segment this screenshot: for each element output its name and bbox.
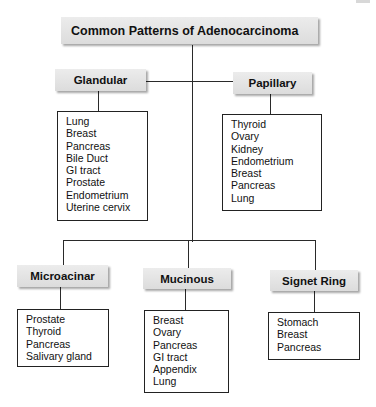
list-item: Pancreas (231, 179, 321, 191)
mucinous-drop-connector (188, 240, 189, 268)
list-item: Prostate (26, 313, 108, 325)
list-item: Ovary (153, 326, 228, 338)
list-item: Breast (153, 314, 228, 326)
list-item: Bile Duct (66, 152, 147, 164)
list-item: Lung (153, 375, 228, 387)
list-item: Endometrium (66, 189, 147, 201)
microacinar-header: Microacinar (17, 265, 108, 287)
list-item: Thyroid (231, 118, 321, 130)
papillary-header: Papillary (233, 72, 312, 94)
glandular-header: Glandular (55, 69, 146, 91)
microacinar-drop-connector (63, 240, 64, 265)
microacinar-list-connector (60, 287, 61, 309)
papillary-list-connector (270, 94, 271, 114)
bottom-branch-connector (63, 240, 316, 241)
list-item: Pancreas (66, 140, 147, 152)
list-item: Pancreas (153, 339, 228, 351)
trunk-connector (192, 45, 193, 242)
mucinous-list-connector (185, 289, 186, 310)
list-item: Appendix (153, 363, 228, 375)
list-item: Kidney (231, 143, 321, 155)
list-item: Uterine cervix (66, 201, 147, 213)
diagram-title: Common Patterns of Adenocarcinoma (61, 17, 318, 44)
list-item: Pancreas (26, 338, 108, 350)
glandular-papillary-connector (146, 81, 233, 82)
signet-drop-connector (315, 240, 316, 270)
signet-list-connector (314, 291, 315, 312)
papillary-sites-list: Thyroid Ovary Kidney Endometrium Breast … (222, 114, 322, 211)
list-item: GI tract (153, 351, 228, 363)
list-item: Lung (66, 115, 147, 127)
list-item: Lung (231, 192, 321, 204)
list-item: Breast (231, 167, 321, 179)
microacinar-sites-list: Prostate Thyroid Pancreas Salivary gland (17, 309, 109, 367)
glandular-list-connector (98, 91, 99, 111)
list-item: Breast (66, 127, 147, 139)
list-item: Pancreas (277, 341, 359, 353)
glandular-sites-list: Lung Breast Pancreas Bile Duct GI tract … (57, 111, 148, 221)
signet-ring-header: Signet Ring (270, 270, 358, 291)
page-corner-mark (356, 0, 370, 3)
mucinous-header: Mucinous (143, 268, 231, 289)
list-item: Prostate (66, 176, 147, 188)
list-item: Ovary (231, 130, 321, 142)
list-item: Salivary gland (26, 350, 108, 362)
mucinous-sites-list: Breast Ovary Pancreas GI tract Appendix … (144, 310, 229, 393)
list-item: GI tract (66, 164, 147, 176)
list-item: Breast (277, 328, 359, 340)
list-item: Thyroid (26, 325, 108, 337)
list-item: Stomach (277, 316, 359, 328)
list-item: Endometrium (231, 155, 321, 167)
signet-ring-sites-list: Stomach Breast Pancreas (268, 312, 360, 360)
